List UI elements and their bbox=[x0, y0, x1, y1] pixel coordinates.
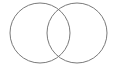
left-circle bbox=[10, 3, 70, 63]
right-circle bbox=[47, 3, 107, 63]
venn-diagram bbox=[0, 0, 115, 68]
